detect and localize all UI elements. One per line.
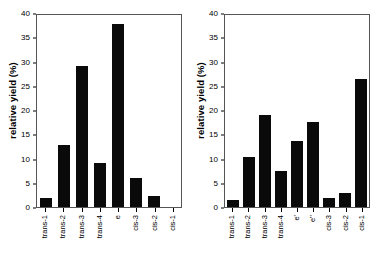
bar-slot <box>73 15 91 207</box>
y-tick-label-right: 25 <box>209 83 218 91</box>
y-tick-label-right: 20 <box>209 107 218 115</box>
x-axis-labels-right: trans-1trans-2trans-3trans-4e'e''cis-3ci… <box>224 213 370 255</box>
bar-cis-1 <box>355 79 367 207</box>
x-label-slot: trans-1 <box>224 213 240 255</box>
bar-slot <box>321 15 337 207</box>
bar-slot <box>145 15 163 207</box>
bar-slot <box>289 15 305 207</box>
y-tick-label-left: 0 <box>26 204 30 212</box>
bar-slot <box>241 15 257 207</box>
y-tick-label-left: 15 <box>21 131 30 139</box>
bar-slot <box>55 15 73 207</box>
bar-trans-4 <box>94 163 107 207</box>
x-tick-label-e': e' <box>293 215 301 221</box>
x-label-slot: e' <box>289 213 305 255</box>
chart-panel-left: relative yield (%) 0510152025303540 tran… <box>0 0 188 255</box>
bar-e' <box>291 141 303 207</box>
x-label-slot: cis-1 <box>354 213 370 255</box>
x-tick-label-trans-3: trans-3 <box>78 215 86 238</box>
bar-slot <box>91 15 109 207</box>
y-tick-label-left: 25 <box>21 83 30 91</box>
dual-bar-chart-figure: relative yield (%) 0510152025303540 tran… <box>0 0 377 255</box>
bar-trans-4 <box>275 171 287 207</box>
y-tick-label-right: 5 <box>214 180 218 188</box>
plot-area-left <box>36 14 182 208</box>
y-tick-label-right: 15 <box>209 131 218 139</box>
x-axis-labels-left: trans-1trans-2trans-3trans-4ecis-3cis-2c… <box>36 213 182 255</box>
bar-series-left <box>37 15 181 207</box>
x-tick-label-cis-3: cis-3 <box>133 215 141 231</box>
x-tick-label-cis-1: cis-1 <box>169 215 177 231</box>
bar-slot <box>305 15 321 207</box>
x-label-slot: trans-3 <box>73 213 91 255</box>
bar-slot <box>225 15 241 207</box>
bar-slot <box>127 15 145 207</box>
bar-cis-2 <box>339 193 351 207</box>
y-axis-ticks-left: 0510152025303540 <box>18 14 33 208</box>
x-tick-label-trans-4: trans-4 <box>277 215 285 238</box>
y-tick-label-left: 20 <box>21 107 30 115</box>
y-tick-label-right: 35 <box>209 34 218 42</box>
x-label-slot: trans-1 <box>36 213 54 255</box>
chart-panel-right: relative yield (%) 0510152025303540 tran… <box>188 0 376 255</box>
x-tick-label-trans-2: trans-2 <box>245 215 253 238</box>
bar-slot <box>109 15 127 207</box>
y-axis-title-label-right: relative yield (%) <box>195 62 206 139</box>
plot-area-right <box>224 14 370 208</box>
y-tick-label-left: 35 <box>21 34 30 42</box>
bar-trans-3 <box>76 66 89 207</box>
bar-slot <box>337 15 353 207</box>
x-label-slot: e'' <box>305 213 321 255</box>
y-tick-label-right: 40 <box>209 10 218 18</box>
x-tick-label-trans-2: trans-2 <box>60 215 68 238</box>
bar-cis-3 <box>130 178 143 207</box>
x-tick-label-cis-1: cis-1 <box>358 215 366 231</box>
bar-trans-1 <box>227 200 239 207</box>
bar-trans-2 <box>58 145 71 207</box>
y-tick-label-right: 10 <box>209 156 218 164</box>
bar-cis-3 <box>323 198 335 207</box>
x-tick-label-trans-4: trans-4 <box>96 215 104 238</box>
x-label-slot: cis-3 <box>127 213 145 255</box>
x-label-slot: cis-2 <box>146 213 164 255</box>
y-tick-label-left: 10 <box>21 156 30 164</box>
x-label-slot: trans-4 <box>91 213 109 255</box>
x-tick-label-cis-3: cis-3 <box>326 215 334 231</box>
bar-slot <box>273 15 289 207</box>
bar-slot <box>257 15 273 207</box>
x-label-slot: trans-2 <box>240 213 256 255</box>
x-tick-label-trans-1: trans-1 <box>41 215 49 238</box>
x-tick-label-trans-3: trans-3 <box>261 215 269 238</box>
bar-trans-2 <box>243 157 255 207</box>
bar-slot <box>353 15 369 207</box>
bar-series-right <box>225 15 369 207</box>
y-tick-label-left: 30 <box>21 59 30 67</box>
bar-e <box>112 24 125 207</box>
x-tick-label-trans-1: trans-1 <box>228 215 236 238</box>
y-axis-title-label-left: relative yield (%) <box>7 62 18 139</box>
x-label-slot: trans-3 <box>256 213 272 255</box>
bar-trans-3 <box>259 115 271 207</box>
bar-trans-1 <box>40 198 53 207</box>
y-tick-label-right: 30 <box>209 59 218 67</box>
y-tick-label-left: 5 <box>26 180 30 188</box>
y-tick-label-right: 0 <box>214 204 218 212</box>
x-label-slot: e <box>109 213 127 255</box>
x-tick-label-e: e <box>114 215 122 219</box>
x-label-slot: cis-2 <box>338 213 354 255</box>
bar-slot <box>163 15 181 207</box>
x-tick-label-e'': e'' <box>309 215 317 222</box>
x-tick-label-cis-2: cis-2 <box>151 215 159 231</box>
bar-slot <box>37 15 55 207</box>
x-label-slot: cis-1 <box>164 213 182 255</box>
bar-e'' <box>307 122 319 207</box>
x-label-slot: trans-2 <box>54 213 72 255</box>
x-tick-label-cis-2: cis-2 <box>342 215 350 231</box>
y-axis-ticks-right: 0510152025303540 <box>206 14 221 208</box>
x-label-slot: cis-3 <box>321 213 337 255</box>
x-label-slot: trans-4 <box>273 213 289 255</box>
y-tick-label-left: 40 <box>21 10 30 18</box>
bar-cis-2 <box>148 196 161 207</box>
